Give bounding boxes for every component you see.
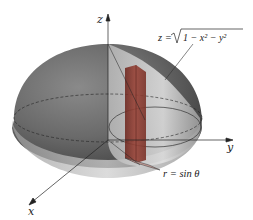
z-axis-label: z <box>96 13 103 26</box>
equation-lhs: z = <box>157 32 172 43</box>
surface-equation-label: z = 1 − x² − y² <box>157 29 243 43</box>
y-axis-label: y <box>226 141 234 154</box>
hemisphere-cylinder-figure: z y x z = 1 − x² − y² r = sin θ <box>0 0 253 220</box>
figure-canvas: z y x z = 1 − x² − y² r = sin θ <box>0 0 253 220</box>
equation-radicand: 1 − x² − y² <box>183 32 227 43</box>
x-axis-label: x <box>28 205 35 218</box>
region-equation-label: r = sin θ <box>163 168 199 179</box>
